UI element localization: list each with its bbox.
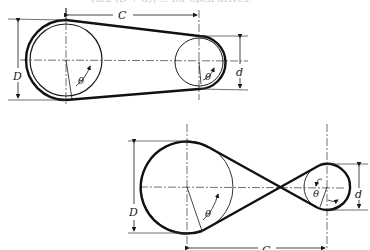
crossed-center-distance-label: C — [262, 244, 271, 250]
open-belt-drive: C D d θ θ — [8, 8, 248, 105]
open-center-distance-label: C — [118, 9, 127, 22]
open-small-diameter-label: d — [236, 66, 243, 79]
open-large-diameter-label: D — [12, 70, 22, 83]
crossed-small-diameter-label: d — [355, 188, 362, 201]
crossed-small-angle-label: θ — [313, 188, 319, 199]
open-small-angle-label: θ — [205, 71, 211, 82]
crossed-extension-lines — [128, 141, 368, 233]
belt-drive-diagram: C D d θ θ — [0, 0, 370, 250]
belt-drive-figure: = [π/2 (D + d)] ... for open drives. — [0, 0, 370, 250]
open-large-angle-label: θ — [78, 75, 84, 86]
crossed-large-diameter-label: D — [128, 206, 138, 219]
open-center-distance-dimension — [66, 8, 197, 20]
crossed-large-angle-label: θ — [205, 208, 211, 219]
crossed-belt-drive: D d C θ — [128, 124, 368, 250]
